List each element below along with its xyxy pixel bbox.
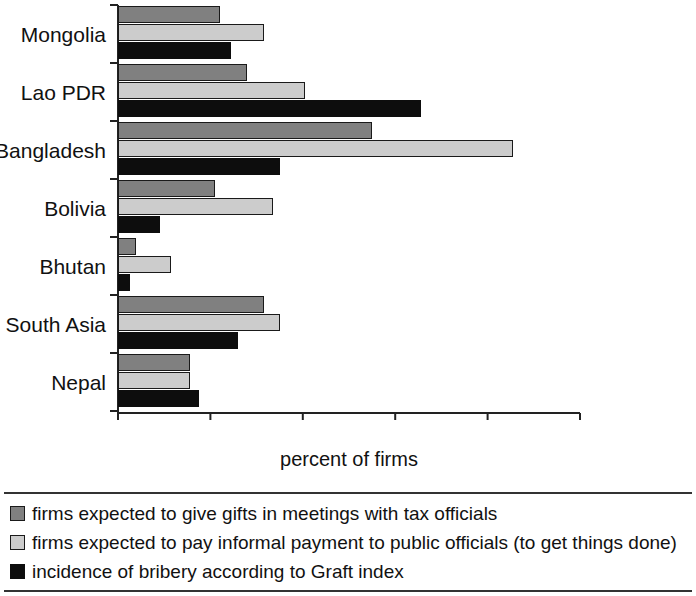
bar-4-0 [118, 238, 136, 255]
black-swatch-icon [10, 564, 25, 579]
bar-4-1 [118, 256, 171, 273]
bar-0-2 [118, 42, 231, 59]
bar-3-1 [118, 198, 273, 215]
bar-2-1 [118, 140, 513, 157]
bar-1-1 [118, 82, 305, 99]
bar-5-1 [118, 314, 280, 331]
legend-item-label: firms expected to give gifts in meetings… [32, 504, 497, 523]
bar-6-2 [118, 390, 199, 407]
dark-gray-swatch-icon [10, 506, 25, 521]
bar-3-2 [118, 216, 160, 233]
bar-5-0 [118, 296, 264, 313]
bar-6-1 [118, 372, 190, 389]
bar-2-0 [118, 122, 372, 139]
legend-item: incidence of bribery according to Graft … [4, 557, 692, 586]
bar-3-0 [118, 180, 215, 197]
plot-area: MongoliaLao PDRBangladeshBoliviaBhutanSo… [0, 0, 696, 420]
bar-4-2 [118, 274, 130, 291]
light-gray-swatch-icon [10, 535, 25, 550]
bar-0-0 [118, 6, 220, 23]
bar-0-1 [118, 24, 264, 41]
bar-5-2 [118, 332, 238, 349]
legend-item: firms expected to pay informal payment t… [4, 528, 692, 557]
x-axis-title: percent of firms [118, 448, 580, 471]
bar-chart-figure: MongoliaLao PDRBangladeshBoliviaBhutanSo… [0, 0, 696, 596]
bar-1-2 [118, 100, 421, 117]
chart-legend: firms expected to give gifts in meetings… [4, 492, 692, 592]
bar-1-0 [118, 64, 247, 81]
legend-item: firms expected to give gifts in meetings… [4, 499, 692, 528]
legend-item-label: firms expected to pay informal payment t… [32, 533, 677, 552]
bar-2-2 [118, 158, 280, 175]
bar-6-0 [118, 354, 190, 371]
legend-item-label: incidence of bribery according to Graft … [32, 562, 404, 581]
bar-series-layer [118, 6, 588, 412]
